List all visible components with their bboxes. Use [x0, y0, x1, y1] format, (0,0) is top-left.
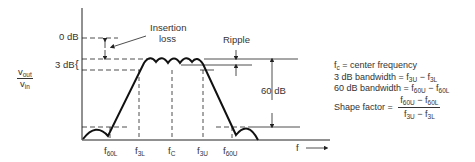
level-3db-label: 3 dB — [55, 60, 75, 70]
y-axis-label: vout vin — [17, 67, 33, 90]
level-60db-label: 60 dB — [261, 86, 286, 96]
legend-center-frequency: fc = center frequency — [334, 60, 449, 72]
tick-f60l: f60L — [104, 146, 118, 157]
response-curve — [83, 58, 258, 140]
legend-shape-factor: Shape factor = f60U − f60Lf3U − f3L — [334, 95, 449, 121]
level-0db-label: 0 dB — [59, 32, 79, 42]
tick-f3l: f3L — [135, 146, 145, 157]
insertion-loss-label-2: loss — [159, 34, 176, 44]
ripple-label: Ripple — [223, 35, 250, 45]
legend-3db-bandwidth: 3 dB bandwidth = f3U − f3L — [334, 72, 449, 84]
insertion-loss-label: Insertion — [150, 23, 186, 33]
legend-60db-bandwidth: 60 dB bandwidth = f60U − f60L — [334, 83, 449, 95]
tick-f3u: f3U — [197, 146, 208, 157]
tick-fc: fC — [168, 146, 175, 157]
x-axis-label: f — [296, 143, 299, 153]
level-3db-brace: { — [75, 59, 79, 69]
tick-f60u: f60U — [223, 146, 238, 157]
legend: fc = center frequency 3 dB bandwidth = f… — [334, 60, 449, 121]
